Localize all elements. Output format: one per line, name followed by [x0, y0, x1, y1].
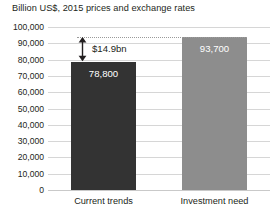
plot-area: 78,80093,700 $14.9bn: [48, 27, 270, 190]
y-axis-tick-label: 0: [0, 186, 44, 195]
y-axis-tick-label: 10,000: [0, 169, 44, 178]
gap-annotation-label: $14.9bn: [92, 43, 127, 54]
bar-value-label: 93,700: [182, 43, 247, 54]
x-axis-category-label: Current trends: [48, 196, 159, 207]
reference-line: [77, 37, 247, 38]
y-axis-tick-label: 90,000: [0, 39, 44, 48]
y-axis-tick-label: 60,000: [0, 88, 44, 97]
y-axis-tick-label: 100,000: [0, 23, 44, 32]
gap-double-arrow-icon: [77, 37, 88, 61]
chart-title: Billion US$, 2015 prices and exchange ra…: [12, 3, 195, 14]
x-axis-category-label: Investment need: [159, 196, 270, 207]
bar-chart: Billion US$, 2015 prices and exchange ra…: [0, 0, 278, 219]
bar-value-label: 78,800: [71, 68, 136, 79]
y-axis-tick-label: 80,000: [0, 55, 44, 64]
bar: 93,700: [182, 37, 247, 190]
y-axis-tick-label: 40,000: [0, 120, 44, 129]
y-axis-tick-label: 50,000: [0, 104, 44, 113]
gridline: [48, 27, 270, 28]
y-axis-tick-label: 20,000: [0, 153, 44, 162]
y-axis-tick-label: 70,000: [0, 71, 44, 80]
y-axis-labels: 010,00020,00030,00040,00050,00060,00070,…: [0, 27, 44, 190]
y-axis-tick-label: 30,000: [0, 137, 44, 146]
bar: 78,800: [71, 62, 136, 190]
gridline: [48, 190, 270, 191]
x-axis-labels: Current trendsInvestment need: [48, 196, 270, 214]
